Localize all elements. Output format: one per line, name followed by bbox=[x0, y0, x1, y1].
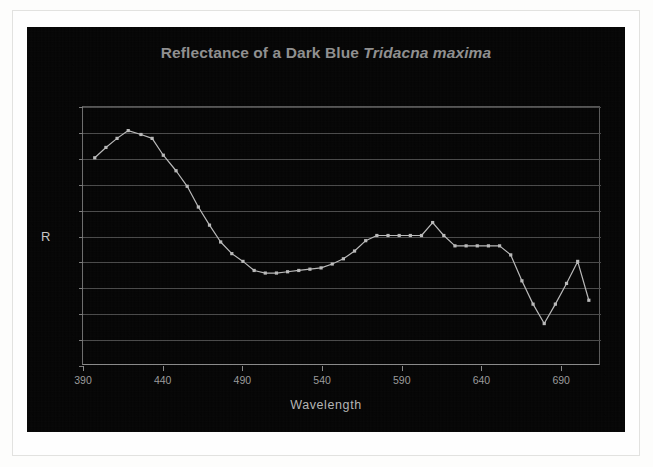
series-data-point bbox=[297, 269, 300, 272]
series-data-point bbox=[275, 271, 278, 274]
reflectance-line-series bbox=[27, 27, 625, 432]
series-data-point bbox=[219, 240, 222, 243]
series-data-point bbox=[565, 282, 568, 285]
series-data-point bbox=[197, 205, 200, 208]
scanned-page: Reflectance of a Dark Blue Tridacna maxi… bbox=[0, 0, 653, 467]
series-data-point bbox=[509, 253, 512, 256]
series-line bbox=[95, 131, 589, 324]
series-data-point bbox=[286, 270, 289, 273]
series-data-point bbox=[104, 146, 107, 149]
series-data-point bbox=[431, 221, 434, 224]
series-data-point bbox=[253, 269, 256, 272]
series-data-point bbox=[139, 133, 142, 136]
series-data-point bbox=[476, 244, 479, 247]
chart-figure: Reflectance of a Dark Blue Tridacna maxi… bbox=[27, 27, 625, 432]
series-data-point bbox=[398, 234, 401, 237]
series-data-point bbox=[531, 303, 534, 306]
series-data-point bbox=[386, 234, 389, 237]
series-data-point bbox=[409, 234, 412, 237]
series-data-point bbox=[498, 244, 501, 247]
series-data-point bbox=[174, 169, 177, 172]
series-data-point bbox=[375, 234, 378, 237]
series-data-point bbox=[93, 156, 96, 159]
series-data-point bbox=[465, 244, 468, 247]
series-data-point bbox=[453, 244, 456, 247]
series-data-point bbox=[364, 239, 367, 242]
series-data-point bbox=[264, 271, 267, 274]
series-data-point bbox=[127, 129, 130, 132]
series-data-point bbox=[576, 260, 579, 263]
series-data-point bbox=[230, 252, 233, 255]
series-data-point bbox=[442, 234, 445, 237]
series-data-point bbox=[115, 137, 118, 140]
series-data-point bbox=[319, 266, 322, 269]
series-data-point bbox=[487, 244, 490, 247]
series-data-point bbox=[420, 234, 423, 237]
series-data-point bbox=[208, 224, 211, 227]
series-data-point bbox=[241, 260, 244, 263]
x-axis-title: Wavelength bbox=[27, 398, 625, 412]
series-data-point bbox=[151, 137, 154, 140]
series-data-point bbox=[353, 249, 356, 252]
series-data-point bbox=[186, 185, 189, 188]
series-data-point bbox=[342, 257, 345, 260]
series-data-point bbox=[331, 262, 334, 265]
series-data-point bbox=[554, 303, 557, 306]
series-data-point bbox=[587, 299, 590, 302]
series-data-point bbox=[308, 268, 311, 271]
series-data-point bbox=[162, 154, 165, 157]
series-data-point bbox=[543, 322, 546, 325]
series-data-point bbox=[520, 279, 523, 282]
